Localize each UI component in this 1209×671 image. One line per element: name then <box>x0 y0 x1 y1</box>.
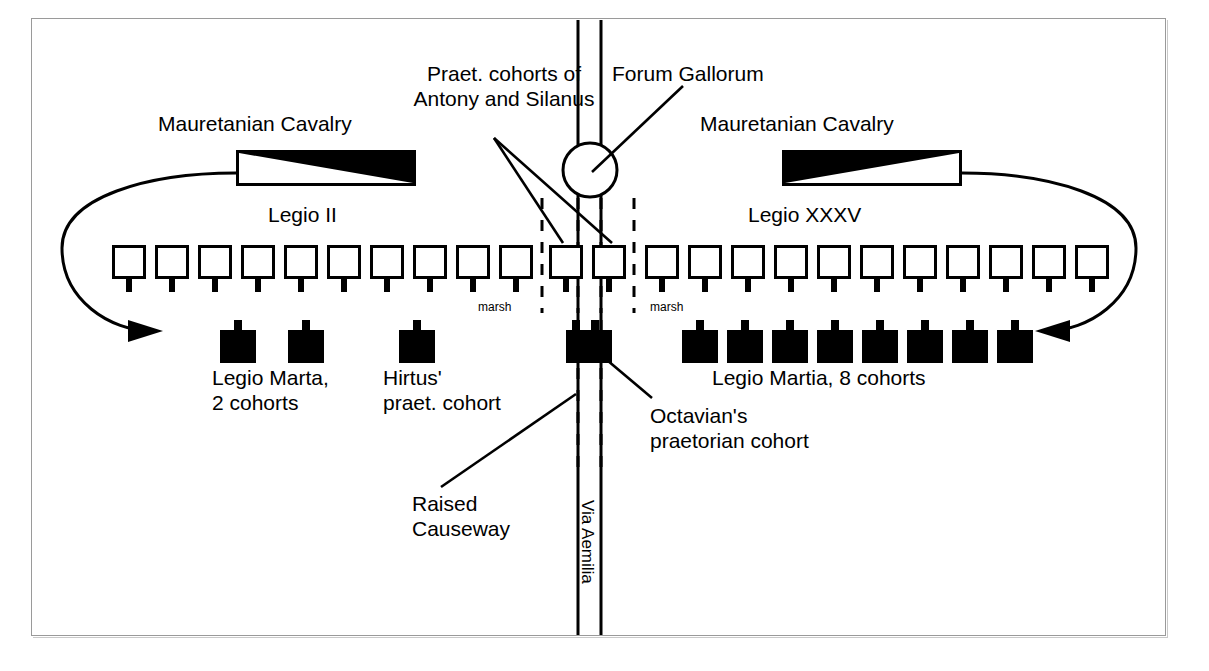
unit-body <box>645 245 679 279</box>
unit-legio-ii-6 <box>327 245 361 279</box>
label-via-aemilia: Via Aemilia <box>577 500 597 584</box>
unit-stem <box>1089 279 1095 292</box>
unit-body <box>946 245 980 279</box>
unit-stem <box>255 279 261 292</box>
unit-stem <box>234 320 242 331</box>
unit-legio-ii-9 <box>456 245 490 279</box>
cavalry-wedge-left <box>239 153 413 183</box>
unit-body <box>413 245 447 279</box>
unit-stem <box>786 320 794 331</box>
unit-body <box>1032 245 1066 279</box>
unit-stem <box>1046 279 1052 292</box>
unit-body <box>241 245 275 279</box>
unit-stem <box>741 320 749 331</box>
unit-legio-xxxv-11 <box>1075 245 1109 279</box>
label-marsh-right: marsh <box>650 300 683 314</box>
unit-stem <box>1003 279 1009 292</box>
unit-stem <box>341 279 347 292</box>
unit-legio-xxxv-3 <box>731 245 765 279</box>
unit-praet-cohort-1 <box>549 245 583 279</box>
unit-stem <box>606 279 612 292</box>
unit-stem <box>413 320 421 331</box>
unit-legio-marta-1 <box>220 330 256 363</box>
unit-stem <box>169 279 175 292</box>
unit-body <box>566 330 612 363</box>
unit-body <box>327 245 361 279</box>
unit-stem <box>659 279 665 292</box>
unit-legio-marta-2 <box>288 330 324 363</box>
unit-body <box>772 330 808 363</box>
unit-stem <box>513 279 519 292</box>
unit-body <box>112 245 146 279</box>
unit-praet-cohort-2 <box>592 245 626 279</box>
unit-stem <box>591 320 599 331</box>
unit-hirtus-praet-cohort <box>399 330 435 363</box>
unit-body <box>774 245 808 279</box>
label-legio-ii: Legio II <box>268 203 337 228</box>
unit-body <box>682 330 718 363</box>
unit-body <box>860 245 894 279</box>
unit-legio-ii-3 <box>198 245 232 279</box>
forum-gallorum-marker <box>563 143 617 197</box>
label-forum-gallorum: Forum Gallorum <box>612 62 764 87</box>
unit-body <box>592 245 626 279</box>
unit-legio-xxxv-4 <box>774 245 808 279</box>
unit-stem <box>921 320 929 331</box>
unit-stem <box>298 279 304 292</box>
unit-body <box>688 245 722 279</box>
unit-body <box>370 245 404 279</box>
unit-stem <box>696 320 704 331</box>
unit-body <box>549 245 583 279</box>
label-legio-marta: Legio Marta, 2 cohorts <box>212 366 329 416</box>
label-mauretanian-cavalry-right: Mauretanian Cavalry <box>700 112 894 137</box>
label-raised-causeway: Raised Causeway <box>412 492 510 542</box>
unit-octavian-praetorian-cohort <box>566 330 612 363</box>
label-octavian-praetorian-cohort: Octavian's praetorian cohort <box>650 404 809 454</box>
unit-legio-ii-1 <box>112 245 146 279</box>
label-hirtus-praet-cohort: Hirtus' praet. cohort <box>383 366 501 416</box>
unit-legio-ii-10 <box>499 245 533 279</box>
unit-legio-martia-5 <box>862 330 898 363</box>
unit-body <box>220 330 256 363</box>
unit-body <box>284 245 318 279</box>
unit-stem <box>572 320 580 331</box>
unit-legio-xxxv-2 <box>688 245 722 279</box>
unit-body <box>155 245 189 279</box>
mauretanian-cavalry-left-symbol <box>236 150 416 186</box>
unit-legio-ii-7 <box>370 245 404 279</box>
unit-body <box>727 330 763 363</box>
unit-body <box>903 245 937 279</box>
unit-stem <box>384 279 390 292</box>
unit-stem <box>745 279 751 292</box>
label-legio-martia: Legio Martia, 8 cohorts <box>712 366 926 391</box>
battle-diagram: Praet. cohorts of Antony and Silanus For… <box>0 0 1209 671</box>
unit-legio-martia-7 <box>952 330 988 363</box>
unit-legio-martia-3 <box>772 330 808 363</box>
unit-stem <box>1011 320 1019 331</box>
unit-body <box>731 245 765 279</box>
unit-stem <box>876 320 884 331</box>
unit-body <box>862 330 898 363</box>
unit-body <box>499 245 533 279</box>
unit-legio-martia-6 <box>907 330 943 363</box>
unit-body <box>952 330 988 363</box>
unit-legio-ii-5 <box>284 245 318 279</box>
unit-body <box>456 245 490 279</box>
unit-stem <box>831 320 839 331</box>
unit-legio-martia-2 <box>727 330 763 363</box>
unit-legio-martia-4 <box>817 330 853 363</box>
unit-legio-ii-2 <box>155 245 189 279</box>
unit-legio-xxxv-8 <box>946 245 980 279</box>
unit-stem <box>966 320 974 331</box>
unit-stem <box>874 279 880 292</box>
unit-legio-ii-8 <box>413 245 447 279</box>
unit-legio-xxxv-9 <box>989 245 1023 279</box>
unit-stem <box>470 279 476 292</box>
unit-body <box>989 245 1023 279</box>
unit-body <box>907 330 943 363</box>
unit-body <box>399 330 435 363</box>
unit-stem <box>212 279 218 292</box>
unit-body <box>997 330 1033 363</box>
unit-stem <box>126 279 132 292</box>
unit-legio-martia-8 <box>997 330 1033 363</box>
